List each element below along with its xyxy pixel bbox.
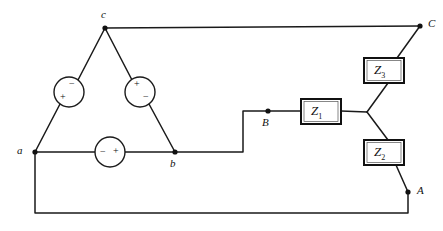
wire-c-to-right-source	[105, 28, 132, 80]
terminal-dot-C	[417, 23, 422, 28]
wire-junction-to-Z3	[367, 83, 388, 112]
terminal-label-C: C	[428, 18, 435, 29]
circuit-schematic-canvas	[0, 0, 443, 231]
wire-junction-to-Z2	[367, 112, 388, 140]
wire-c-to-left-source	[78, 28, 105, 80]
impedance-label-Z2: Z2	[374, 145, 385, 162]
source-bottom-plus-sign: +	[113, 146, 119, 156]
node-dot-b	[172, 149, 177, 154]
impedance-label-Z1: Z1	[311, 104, 322, 121]
node-dot-a	[32, 149, 37, 154]
impedance-label-Z1-subscript: 1	[318, 112, 322, 121]
wire-terminal-C-to-Z3	[397, 26, 420, 58]
source-bottom-minus-sign: −	[100, 147, 106, 157]
node-dot-group	[32, 23, 422, 194]
source-right-plus-sign: +	[134, 79, 140, 89]
wire-Z2-to-terminal-A	[396, 165, 408, 192]
impedance-label-Z2-subscript: 2	[381, 153, 385, 162]
wire-Z1-to-junction	[341, 111, 367, 112]
wire-c-to-terminal-C	[105, 26, 420, 28]
node-label-a: a	[17, 145, 23, 156]
impedance-label-Z3-subscript: 3	[381, 71, 385, 80]
wire-b-to-terminal-B-step	[175, 111, 268, 152]
impedance-label-Z3: Z3	[374, 63, 385, 80]
wire-a-to-terminal-A-return	[35, 152, 408, 213]
node-label-b: b	[170, 158, 176, 169]
terminal-label-A: A	[417, 185, 424, 196]
terminal-label-B: B	[262, 117, 269, 128]
terminal-dot-A	[405, 189, 410, 194]
wire-left-source-to-a	[35, 104, 60, 152]
source-right-minus-sign: −	[143, 92, 149, 102]
terminal-dot-B	[265, 108, 270, 113]
node-dot-c	[102, 25, 107, 30]
source-left-minus-sign: −	[69, 79, 75, 89]
circuit-diagram: a b c A B C − + + − − + Z1 Z2 Z3	[0, 0, 443, 231]
source-left-plus-sign: +	[60, 92, 66, 102]
wire-group	[35, 26, 420, 213]
node-label-c: c	[101, 9, 106, 20]
source-circle-right	[125, 77, 155, 107]
wire-right-source-to-b	[149, 104, 175, 152]
